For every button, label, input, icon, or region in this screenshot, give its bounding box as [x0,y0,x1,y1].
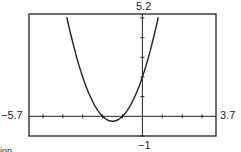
ymin-label: −1 [138,140,151,151]
caption-fragment: ion [0,146,12,152]
graph-canvas [0,0,241,152]
axes [29,14,216,136]
ymax-label: 5.2 [136,1,151,12]
xmin-label: −5.7 [1,110,23,121]
parabola-curve [67,17,159,121]
xmax-label: 3.7 [220,110,235,121]
